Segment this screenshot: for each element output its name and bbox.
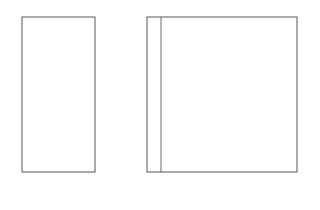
ae-events-chart	[0, 0, 95, 172]
stress-strain-chart	[0, 0, 297, 172]
figure	[0, 0, 320, 210]
ss-plot-frame	[147, 17, 297, 172]
ae-plot-frame	[22, 17, 95, 172]
